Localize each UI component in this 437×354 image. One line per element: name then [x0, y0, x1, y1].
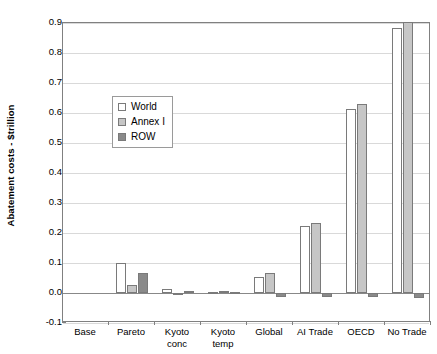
x-axis-label: AI Trade [292, 326, 338, 338]
bar-row [138, 273, 149, 293]
bar-world [300, 226, 311, 293]
bar-group [293, 23, 339, 321]
bar-annex [127, 285, 138, 293]
x-axis-label: Global [246, 326, 292, 338]
y-axis-tick-label: 0.1 [28, 257, 62, 267]
y-axis-tick-label: 0.7 [28, 77, 62, 87]
bar-row [276, 293, 287, 297]
legend-label-world: World [131, 101, 157, 113]
legend-label-annex-i: Annex I [131, 116, 165, 128]
x-axis-label: Kyotoconc [154, 326, 200, 349]
x-axis-tick-mark [384, 321, 385, 325]
y-axis-tick-label: 0.5 [28, 137, 62, 147]
bar-annex [403, 22, 414, 294]
x-axis-label: Pareto [108, 326, 154, 338]
chart-legend: World Annex I ROW [112, 96, 173, 148]
y-axis-tick-label: -0.1 [28, 317, 62, 327]
bars-layer [63, 23, 429, 321]
x-axis-label: Kyototemp [200, 326, 246, 349]
bar-world [162, 289, 173, 293]
x-axis-label: OECD [338, 326, 384, 338]
x-axis-tick-mark [292, 321, 293, 325]
y-axis-title-text: Abatement costs - $trillion [5, 104, 16, 226]
bar-row [184, 291, 195, 293]
bar-annex [173, 293, 184, 295]
x-axis-tick-mark [246, 321, 247, 325]
bar-group [109, 23, 155, 321]
legend-item: World [118, 101, 165, 113]
bar-group [339, 23, 385, 321]
x-axis-tick-mark [430, 321, 431, 325]
bar-group [201, 23, 247, 321]
y-axis-title: Abatement costs - $trillion [0, 0, 20, 330]
bar-world [392, 28, 403, 294]
y-axis-tick-label: 0.8 [28, 47, 62, 57]
x-axis-label: No Trade [384, 326, 430, 338]
plot-area [62, 22, 430, 322]
x-axis-labels: BaseParetoKyotoconcKyototempGlobalAI Tra… [62, 326, 430, 354]
legend-swatch-row-icon [118, 133, 126, 141]
x-axis-tick-mark [154, 321, 155, 325]
y-axis-tick-label: 0.4 [28, 167, 62, 177]
y-axis-tick-label: 0.6 [28, 107, 62, 117]
y-axis-tick-group: 0.90.80.70.60.50.40.30.20.10.0-0.1 [22, 22, 62, 322]
x-axis-tick-mark [108, 321, 109, 325]
x-axis-label: Base [62, 326, 108, 338]
bar-annex [357, 104, 368, 293]
bar-group [385, 23, 431, 321]
bar-annex [265, 273, 276, 293]
bar-world [116, 263, 127, 293]
bar-row [322, 293, 333, 297]
y-axis-tick-label: 0.2 [28, 227, 62, 237]
bar-row [368, 293, 379, 297]
x-axis-tick-mark [200, 321, 201, 325]
bar-world [254, 277, 265, 294]
x-axis-tick-mark [338, 321, 339, 325]
chart-container: Abatement costs - $trillion 0.90.80.70.6… [0, 0, 437, 354]
y-axis-tick-label: 0.9 [28, 17, 62, 27]
legend-swatch-annex-i-icon [118, 118, 126, 126]
legend-item: Annex I [118, 116, 165, 128]
legend-item: ROW [118, 131, 165, 143]
bar-world [208, 292, 219, 294]
legend-swatch-world-icon [118, 103, 126, 111]
bar-group [155, 23, 201, 321]
y-axis-tick-label: 0.0 [28, 287, 62, 297]
bar-annex [219, 291, 230, 293]
bar-world [346, 109, 357, 294]
legend-label-row: ROW [131, 131, 155, 143]
bar-row [414, 293, 425, 298]
y-axis-tick-label: 0.3 [28, 197, 62, 207]
bar-group [247, 23, 293, 321]
bar-row [230, 292, 241, 294]
bar-group [63, 23, 109, 321]
bar-annex [311, 223, 322, 294]
